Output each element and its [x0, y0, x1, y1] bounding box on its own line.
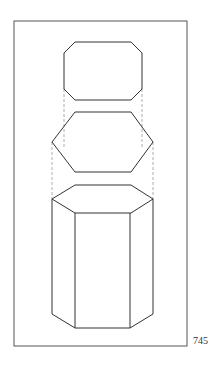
- hexagonal-prism: [52, 185, 153, 328]
- figure-frame: [14, 21, 187, 346]
- page-number: 745: [193, 335, 208, 346]
- hexagon-view-shape: [52, 112, 153, 172]
- projection-lines: [52, 89, 153, 199]
- projection-diagram: [0, 0, 210, 368]
- top-view-shape: [64, 42, 142, 100]
